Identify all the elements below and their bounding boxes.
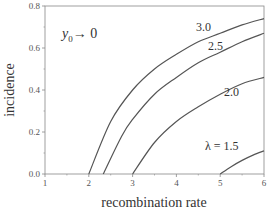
x-tick-label: 5 bbox=[218, 178, 223, 188]
annotation-y0: y0→ 0 bbox=[60, 26, 97, 44]
curve-label: 3.0 bbox=[196, 20, 211, 34]
x-tick-label: 6 bbox=[262, 178, 267, 188]
y-tick-label: 0.2 bbox=[29, 127, 40, 137]
curve-label: 2.0 bbox=[224, 85, 239, 99]
y-tick-label: 0.8 bbox=[29, 1, 41, 11]
y-axis-label: incidence bbox=[2, 63, 17, 117]
y-tick-label: 0.0 bbox=[29, 169, 41, 179]
y-tick-label: 0.6 bbox=[29, 43, 41, 53]
curve-lambda-1-5 bbox=[220, 151, 264, 174]
curve-lambda-2-5 bbox=[103, 33, 264, 174]
x-tick-label: 3 bbox=[130, 178, 135, 188]
x-tick-label: 4 bbox=[174, 178, 179, 188]
curve-label: 2.5 bbox=[208, 39, 223, 53]
x-axis-label: recombination rate bbox=[101, 195, 206, 210]
y-tick-label: 0.4 bbox=[29, 85, 41, 95]
x-tick-label: 2 bbox=[87, 178, 92, 188]
curve-label: λ = 1.5 bbox=[205, 139, 239, 153]
chart: 1234560.00.20.40.60.8 3.02.52.0λ = 1.5 y… bbox=[0, 0, 269, 212]
x-tick-label: 1 bbox=[43, 178, 48, 188]
